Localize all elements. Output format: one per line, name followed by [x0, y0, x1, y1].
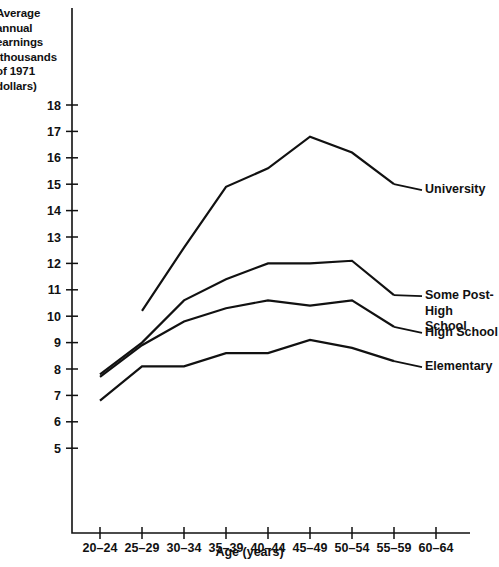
series-label-high-school: High School: [425, 325, 498, 341]
y-tick-label-15: 15: [47, 178, 61, 192]
y-tick-label-16: 16: [47, 151, 61, 165]
series-label-elementary: Elementary: [425, 359, 492, 375]
y-tick-label-5: 5: [54, 442, 61, 456]
series-line-university: [142, 137, 394, 311]
y-tick-label-12: 12: [47, 257, 61, 271]
y-tick-label-13: 13: [47, 231, 61, 245]
y-tick-label-18: 18: [47, 99, 61, 113]
y-tick-label-7: 7: [54, 389, 61, 403]
y-tick-label-10: 10: [47, 310, 61, 324]
y-tick-label-17: 17: [47, 125, 61, 139]
x-axis-title: Age (years): [0, 545, 499, 559]
y-tick-label-8: 8: [54, 363, 61, 377]
series-leader-some-post-high-school: [394, 295, 422, 296]
series-leader-university: [394, 184, 422, 190]
series-line-elementary: [100, 340, 394, 401]
series-line-some-post-high-school: [100, 261, 394, 375]
chart-figure: Average annual earnings (thousands of 19…: [0, 0, 499, 567]
y-tick-label-9: 9: [54, 336, 61, 350]
y-tick-label-6: 6: [54, 415, 61, 429]
series-label-university: University: [425, 182, 485, 198]
series-leader-high-school: [394, 327, 422, 333]
y-tick-label-11: 11: [48, 283, 61, 297]
series-leader-elementary: [394, 361, 422, 367]
plot-area: 5678910111213141516171820–2425–2930–3435…: [0, 0, 499, 567]
y-tick-label-14: 14: [47, 204, 61, 218]
